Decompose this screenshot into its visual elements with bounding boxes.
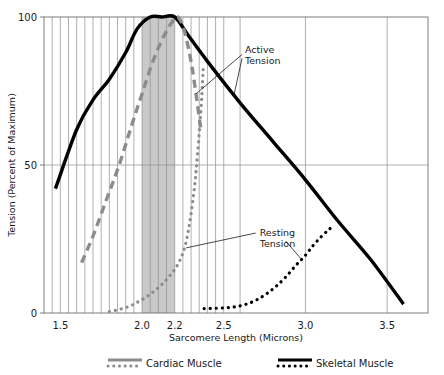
y-axis-title: Tension (Percent of Maximum) [6, 93, 17, 238]
x-tick-label-2.0: 2.0 [134, 320, 150, 331]
annotation-resting-tension: Resting Tension [259, 227, 295, 249]
y-tick-label-100: 100 [18, 12, 37, 23]
x-tick-label-2.2: 2.2 [167, 320, 183, 331]
y-tick-label-50: 50 [24, 160, 37, 171]
annotation-active-tension-line1: Active [245, 44, 275, 55]
annotation-resting-tension-line2: Tension [259, 238, 295, 249]
x-tick-label-3.0: 3.0 [297, 320, 313, 331]
x-axis-title: Sarcomere Length (Microns) [169, 332, 303, 343]
annotation-resting-tension-line1: Resting [260, 227, 295, 238]
x-tick-label-2.5: 2.5 [216, 320, 232, 331]
x-tick-label-3.5: 3.5 [379, 320, 395, 331]
y-tick-label-0: 0 [31, 308, 37, 319]
legend-label-cardiac: Cardiac Muscle [146, 358, 222, 369]
annotation-active-tension-line2: Tension [244, 55, 280, 66]
sarcomere-length-tension-chart: Active Tension Resting Tension 0 50 100 … [0, 0, 444, 375]
legend-label-skeletal: Skeletal Muscle [316, 358, 393, 369]
x-tick-label-1.5: 1.5 [52, 320, 68, 331]
chart-background [0, 0, 444, 375]
